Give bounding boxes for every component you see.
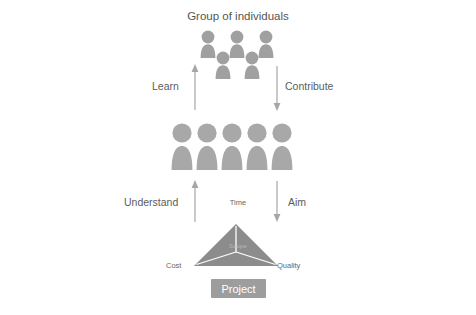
organization-band	[15, 110, 461, 178]
project-box: Project	[211, 279, 266, 298]
flow-label-learn: Learn	[152, 80, 179, 92]
triangle-label-scope: Scope	[0, 243, 476, 249]
band-figure-row	[172, 123, 293, 170]
learn-arrow-up	[192, 64, 199, 110]
group-figure-bottom-row	[216, 52, 260, 79]
triangle-label-quality: Quality	[277, 261, 300, 270]
person-icon	[216, 52, 231, 79]
person-icon	[172, 123, 193, 170]
person-icon	[197, 123, 218, 170]
person-icon	[245, 52, 260, 79]
person-icon	[222, 123, 243, 170]
diagram-canvas: Group of individuals	[0, 0, 476, 315]
person-icon	[259, 31, 274, 58]
group-of-individuals-title: Group of individuals	[0, 10, 476, 22]
person-icon	[247, 123, 268, 170]
person-icon	[230, 31, 245, 58]
triangle-label-cost: Cost	[166, 261, 181, 270]
group-figure-top-row	[201, 31, 274, 58]
diagram-graphics	[0, 0, 476, 315]
triangle-label-time: Time	[0, 198, 476, 207]
flow-label-contribute: Contribute	[285, 80, 333, 92]
person-icon	[272, 123, 293, 170]
contribute-arrow-down	[274, 66, 281, 111]
person-icon	[201, 31, 216, 58]
